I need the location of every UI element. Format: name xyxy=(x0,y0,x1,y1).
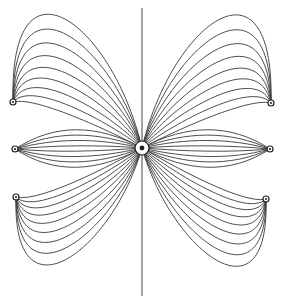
charge-icon-left-middle xyxy=(12,146,18,152)
field-line xyxy=(16,148,142,233)
field-line xyxy=(142,148,266,225)
field-line xyxy=(16,148,142,265)
charge-icon-left-bottom xyxy=(13,194,19,200)
field-line xyxy=(142,146,270,149)
field-line-diagram xyxy=(0,0,284,308)
center-charge-icon xyxy=(135,141,149,155)
charge-icon-right-top xyxy=(268,100,274,106)
field-line xyxy=(13,67,142,148)
field-line xyxy=(16,148,142,253)
field-line xyxy=(15,148,142,151)
charge-icon-right-bottom xyxy=(263,196,269,202)
field-line xyxy=(142,148,266,255)
field-line xyxy=(142,148,270,151)
field-line xyxy=(142,148,266,266)
field-line xyxy=(15,146,142,149)
charge-icon-right-middle xyxy=(267,146,273,152)
field-line xyxy=(142,148,266,244)
field-line xyxy=(142,79,271,148)
field-line xyxy=(142,102,271,148)
charge-icon-left-top xyxy=(10,99,16,105)
